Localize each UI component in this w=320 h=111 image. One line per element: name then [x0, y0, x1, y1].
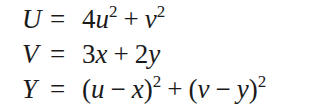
variable: u	[91, 74, 105, 104]
variable: u	[96, 4, 110, 34]
equation-rhs: 4u2+v2	[82, 2, 165, 37]
plus-operator: +	[161, 74, 188, 104]
equation-lhs: U	[22, 2, 42, 37]
exponent: 2	[258, 72, 267, 91]
coefficient: 2	[135, 39, 149, 69]
equation-lhs: V	[22, 37, 39, 72]
close-paren: )	[144, 74, 153, 104]
equation-u: U = 4u2+v2	[0, 2, 320, 37]
open-paren: (	[82, 74, 91, 104]
minus-operator: −	[209, 74, 236, 104]
variable: v	[145, 4, 157, 34]
equation-y: Y = (u−x)2+(v−y)2	[0, 72, 320, 107]
exponent: 2	[109, 2, 118, 21]
variable: v	[197, 74, 209, 104]
variable: x	[132, 74, 144, 104]
equals-sign: =	[50, 37, 65, 72]
exponent: 2	[153, 72, 162, 91]
coefficient: 4	[82, 4, 96, 34]
coefficient: 3	[82, 39, 96, 69]
equation-v: V = 3x+2y	[0, 37, 320, 72]
plus-operator: +	[118, 4, 145, 34]
variable: y	[237, 74, 249, 104]
equals-sign: =	[50, 72, 65, 107]
equation-rhs: (u−x)2+(v−y)2	[82, 72, 266, 107]
variable: x	[96, 39, 108, 69]
equation-system: U = 4u2+v2 V = 3x+2y Y = (u−x)2+(v−y)2	[0, 0, 320, 111]
close-paren: )	[249, 74, 258, 104]
variable: y	[148, 39, 160, 69]
exponent: 2	[157, 2, 166, 21]
equation-rhs: 3x+2y	[82, 37, 160, 72]
equals-sign: =	[50, 2, 65, 37]
minus-operator: −	[105, 74, 132, 104]
plus-operator: +	[107, 39, 134, 69]
equation-lhs: Y	[22, 72, 37, 107]
